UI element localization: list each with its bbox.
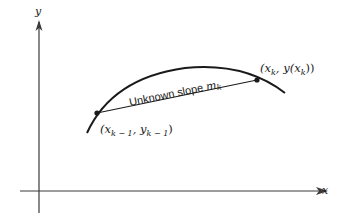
previous-point-marker <box>94 110 99 115</box>
svg-text:Unknown slope mk: Unknown slope mk <box>128 78 223 110</box>
label-part: ) <box>168 122 173 136</box>
previous-point-label: (xk − 1, yk − 1) <box>100 122 173 138</box>
secant-label: Unknown slope mk <box>128 78 223 110</box>
label-part: )) <box>305 61 314 75</box>
diagram-canvas: y x Unknown slope mk (xk − 1, yk − 1) (x… <box>0 0 341 219</box>
current-point-marker <box>254 77 259 82</box>
label-part: , y(x <box>276 61 301 75</box>
x-axis-label: x <box>322 184 329 197</box>
secant-label-text: Unknown slope <box>128 81 207 108</box>
label-part: , y <box>133 122 147 136</box>
function-curve <box>87 67 285 133</box>
label-sub: k − 1 <box>147 129 169 138</box>
current-point-label: (xk, y(xk)) <box>260 61 314 77</box>
secant-label-sub: k <box>216 82 223 92</box>
label-part: (x <box>260 61 271 75</box>
y-axis-label: y <box>34 5 42 18</box>
label-part: (x <box>100 122 111 136</box>
label-sub: k − 1 <box>111 129 133 138</box>
